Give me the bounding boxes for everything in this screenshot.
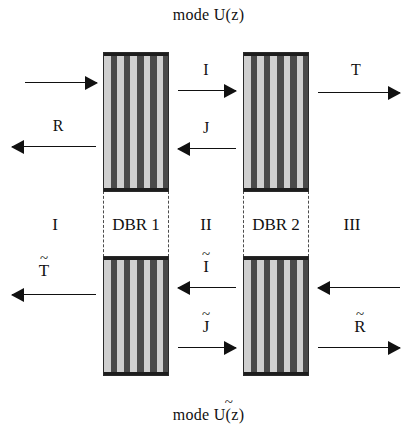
arrow-transmitted-top-right bbox=[318, 86, 400, 100]
label-amplitude-I: I bbox=[186, 62, 226, 78]
label-amplitude-T-tilde: ~ T bbox=[22, 262, 66, 279]
tilde-mark: ~ bbox=[356, 307, 364, 322]
bragg-layer-high-index bbox=[124, 257, 131, 375]
dbr2-label: DBR 2 bbox=[243, 215, 309, 235]
arrow-transmitted-bottom-left bbox=[12, 288, 96, 302]
arrow-cavity-backward bbox=[178, 142, 236, 156]
tilde-group: ~ J bbox=[203, 318, 210, 335]
caption-prefix: mode bbox=[173, 406, 214, 423]
arrowhead-left bbox=[177, 281, 190, 295]
tilde-mark: ~ bbox=[225, 395, 233, 410]
dbr1-label: DBR 1 bbox=[103, 215, 169, 235]
arrowhead-left bbox=[177, 142, 190, 156]
stack-cap-top bbox=[244, 257, 308, 260]
bragg-layer-high-index bbox=[264, 257, 271, 375]
bragg-layer-high-index bbox=[303, 257, 309, 375]
figure-canvas: mode U(z) DBR 1 DBR 2 I II III R I J bbox=[0, 0, 417, 443]
tilde-mark: ~ bbox=[202, 247, 210, 262]
bragg-layer-high-index bbox=[163, 257, 169, 375]
bragg-layer-high-index bbox=[290, 53, 297, 191]
bragg-layer-high-index bbox=[251, 53, 258, 191]
arrow-cavity-forward bbox=[178, 84, 236, 98]
bragg-layer-high-index bbox=[303, 53, 309, 191]
arrow-cavity-backward-lower bbox=[178, 281, 236, 295]
arrowhead-right bbox=[388, 341, 401, 355]
stack-cap-bottom bbox=[104, 372, 168, 375]
bragg-layer-high-index bbox=[137, 53, 144, 191]
tilde-group: ~U(z) bbox=[214, 406, 245, 424]
tilde-mark: ~ bbox=[202, 307, 210, 322]
bragg-layer-high-index bbox=[277, 257, 284, 375]
label-amplitude-I-tilde: ~ I bbox=[186, 258, 226, 275]
dbr2-lower-stack bbox=[243, 256, 309, 376]
tilde-group: ~ R bbox=[354, 318, 365, 335]
bragg-layer-high-index bbox=[277, 53, 284, 191]
bragg-layer-high-index bbox=[150, 257, 157, 375]
bragg-layer-high-index bbox=[264, 53, 271, 191]
arrowhead-right bbox=[388, 86, 401, 100]
stack-cap-top bbox=[104, 257, 168, 260]
stack-cap-top bbox=[104, 53, 168, 56]
tilde-group: ~ I bbox=[203, 258, 209, 275]
bragg-layer-high-index bbox=[290, 257, 297, 375]
arrow-shaft bbox=[318, 287, 400, 288]
arrow-incident-top-left bbox=[25, 76, 97, 90]
label-amplitude-J: J bbox=[186, 120, 226, 136]
label-amplitude-J-tilde: ~ J bbox=[186, 318, 226, 335]
bragg-layer-high-index bbox=[251, 257, 258, 375]
arrowhead-right bbox=[224, 84, 237, 98]
region-label-ii: II bbox=[181, 215, 231, 235]
bragg-layer-high-index bbox=[150, 53, 157, 191]
region-label-i: I bbox=[30, 215, 80, 235]
arrowhead-left bbox=[11, 140, 24, 154]
arrow-cavity-forward-lower bbox=[178, 341, 236, 355]
arrowhead-left bbox=[11, 288, 24, 302]
arrow-reflected-top-left bbox=[12, 140, 96, 154]
stack-cap-bottom bbox=[104, 188, 168, 191]
dbr1-lower-stack bbox=[103, 256, 169, 376]
arrowhead-right bbox=[85, 76, 98, 90]
bragg-layer-high-index bbox=[111, 53, 118, 191]
bragg-layer-high-index bbox=[137, 257, 144, 375]
bragg-layer-high-index bbox=[111, 257, 118, 375]
stack-cap-bottom bbox=[244, 372, 308, 375]
bragg-layer-high-index bbox=[163, 53, 169, 191]
label-amplitude-R: R bbox=[38, 118, 78, 134]
bragg-layer-high-index bbox=[124, 53, 131, 191]
caption-mode-u-tilde: mode ~U(z) bbox=[0, 406, 417, 424]
arrow-reflected-bottom-right bbox=[318, 341, 400, 355]
arrow-shaft bbox=[12, 146, 96, 147]
arrow-shaft bbox=[12, 294, 96, 295]
label-amplitude-T: T bbox=[336, 62, 376, 78]
caption-mode-u: mode U(z) bbox=[0, 6, 417, 24]
region-label-iii: III bbox=[325, 215, 379, 235]
arrowhead-right bbox=[224, 341, 237, 355]
tilde-group: ~ T bbox=[39, 262, 49, 279]
stack-cap-top bbox=[244, 53, 308, 56]
label-amplitude-R-tilde: ~ R bbox=[338, 318, 382, 335]
arrowhead-left bbox=[317, 281, 330, 295]
arrow-incident-bottom-right bbox=[318, 281, 400, 295]
dbr1-upper-stack bbox=[103, 52, 169, 192]
tilde-mark: ~ bbox=[40, 251, 48, 266]
dbr2-upper-stack bbox=[243, 52, 309, 192]
stack-cap-bottom bbox=[244, 188, 308, 191]
